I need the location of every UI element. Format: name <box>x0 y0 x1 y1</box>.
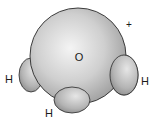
hydrogen-bottom-label: H <box>45 108 53 119</box>
hydrogen-right-label: H <box>141 76 149 87</box>
hydrogen-bottom-sphere <box>54 87 90 113</box>
hydrogen-right-front <box>110 55 138 95</box>
oxygen-label: O <box>75 52 84 63</box>
hydrogen-left-label: H <box>5 74 13 85</box>
charge-label: + <box>126 20 132 30</box>
